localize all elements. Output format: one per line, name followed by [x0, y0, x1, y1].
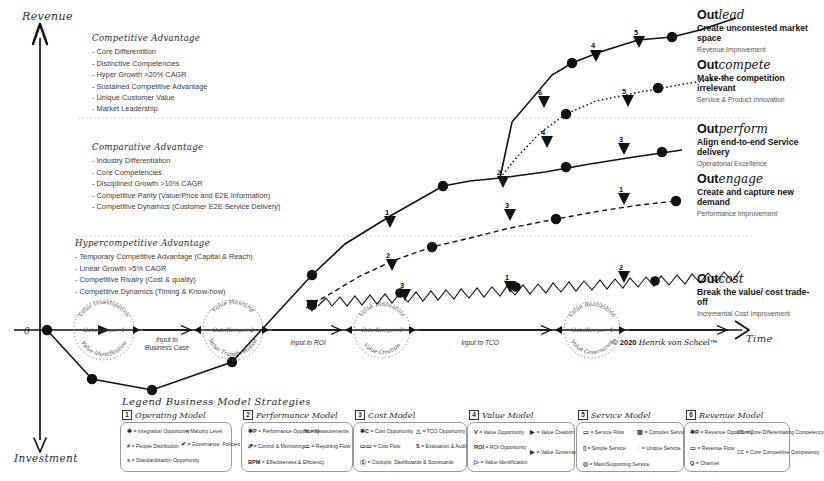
legend-item: ✱C = Cost Opportunity: [360, 428, 413, 434]
legend-box-performance-model[interactable]: ✱P = Performance Opportunity 𝒫 = Control…: [241, 422, 353, 472]
band-item: - Linear Growth >5% CAGR: [75, 263, 253, 274]
legend-box-title: Service Model: [591, 410, 651, 420]
band-item: - Market Leadership: [92, 103, 207, 114]
gatekeeper-1-name: GateKeeper 1: [74, 326, 134, 333]
legend-item: 𝒫 = Control & Monitoring: [248, 443, 304, 449]
legend-box-title: Revenue Model: [699, 410, 764, 420]
legend-box-title: Cost Model: [368, 410, 415, 420]
strategy-desc: Make the competition irrelevant: [697, 73, 815, 94]
y-axis-bottom-label: Investment: [14, 452, 78, 464]
strategy-outlead: Outlead Create uncontested market space …: [697, 8, 815, 54]
legend-item: △ = TCO Opportunity: [416, 428, 465, 434]
legend-num: 2: [243, 410, 253, 420]
step-label-outcost-1: 1: [505, 273, 509, 282]
legend-item: ▭ = Reporting Flow: [304, 443, 350, 449]
legend-item: ≡ = Standardization Opportunity: [127, 457, 199, 463]
strategy-sub: Incremental Cost Improvement: [697, 310, 815, 318]
legend-item: % = Measurements: [304, 428, 349, 434]
strategy-prefix: Out: [697, 58, 719, 72]
copyright-notice: © 2020 Henrik von Scheel™: [612, 338, 717, 347]
legend-item: ▯ = Simple Service: [583, 445, 626, 451]
step-label-outlead-4: 4: [591, 41, 595, 50]
series-outcompete: [500, 78, 726, 178]
strategy-outcost: Outcost Break the value/ cost trade-off …: [697, 272, 815, 318]
legend-item: ROI = ROI Opportunity: [474, 444, 527, 450]
step-label-outcompete-5: 5: [622, 87, 626, 96]
flow-caption-line1: Input to: [128, 336, 206, 344]
legend-item: ▷ = Value Identification: [474, 459, 527, 465]
legend-num: 6: [686, 410, 696, 420]
legend-box-operating-model[interactable]: ✱ = Integration Opportunity # = People D…: [120, 422, 232, 472]
legend-item: ◌ = Unique Service: [637, 445, 681, 451]
step-label-outlead-1: 1: [385, 208, 389, 217]
strategy-name: Outperform: [697, 122, 815, 136]
copyright-year: © 2020: [612, 338, 637, 347]
strategy-desc: Create and capture new demand: [697, 187, 815, 208]
legend-item: ▶ = Value Governance: [530, 449, 583, 455]
legend-head-4: 4Value Model: [469, 410, 533, 420]
series-outengage: [306, 196, 681, 310]
band-item: - Hyper Growth >20% CAGR: [92, 69, 207, 80]
flow-caption-roi: Input to ROI: [268, 339, 348, 347]
gatekeeper-2-name: GateKeeper 2: [203, 326, 263, 333]
legend-num: 3: [355, 410, 365, 420]
legend-item: ▨ = Complex Service: [637, 429, 687, 435]
band-competitive-advantage: Competitive Advantage - Core Differentit…: [92, 33, 207, 115]
legend-item: ◌ = Maturity Level: [181, 428, 222, 434]
legend-box-value-model[interactable]: V = Value Opportunity ROI = ROI Opportun…: [467, 422, 575, 472]
legend-head-6: 6Revenue Model: [686, 410, 764, 420]
legend-box-title: Performance Model: [256, 410, 338, 420]
legend-title: Legend Business Model Strategies: [122, 396, 311, 407]
step-label-outperform-3: 3: [619, 135, 623, 144]
legend-box-cost-model[interactable]: ✱C = Cost Opportunity ▭▭ = Cost Flow Ⓢ =…: [353, 422, 467, 472]
legend-item: ▭ = Service Flow: [583, 429, 624, 435]
strategy-sub: Performance Improvement: [697, 210, 815, 218]
band-item: - Temporary Competitive Advantage (Capit…: [75, 251, 253, 262]
legend-item: CD = Core Differentiating Competency: [737, 429, 824, 435]
legend-num: 5: [578, 410, 588, 420]
legend-item: ▭▭ = Cost Flow: [360, 443, 400, 449]
strategy-desc: Create uncontested market space: [697, 23, 815, 44]
strategy-prefix: Out: [697, 172, 719, 186]
strategy-sub: Revenue Improvement: [697, 46, 815, 54]
legend-item: # = People Distribution: [127, 443, 179, 449]
band-hypercompetitive-advantage: Hypercompetitive Advantage - Temporary C…: [75, 238, 253, 297]
strategy-outengage: Outengage Create and capture new demand …: [697, 172, 815, 218]
strategy-name: Outcost: [697, 272, 815, 286]
strategy-name: Outengage: [697, 172, 815, 186]
origin-label: 0: [24, 326, 30, 336]
legend-head-3: 3Cost Model: [355, 410, 415, 420]
band-item: - Distinctive Competencies: [92, 58, 207, 69]
strategy-suffix: engage: [719, 172, 763, 186]
strategy-prefix: Out: [697, 272, 719, 286]
strategy-sub: Service & Product Innovation: [697, 96, 815, 104]
step-label-outlead-6: 6: [538, 88, 542, 97]
strategy-outcompete: Outcompete Make the competition irreleva…: [697, 58, 815, 104]
step-label-outengage-1: 1: [619, 185, 623, 194]
copyright-name: Henrik von Scheel: [639, 338, 710, 347]
legend-item: CC = Core Competitive Competency: [737, 449, 819, 455]
step-label-outcompete-4: 4: [541, 128, 545, 137]
legend-item: Ⓢ = Cockpits, Dashboards & Scorecards: [360, 459, 454, 465]
legend-box-service-model[interactable]: ▭ = Service Flow ▯ = Simple Service ◎ = …: [576, 422, 684, 472]
strategy-desc: Align end-to-end Service delivery: [697, 137, 815, 158]
series-outperform: [500, 147, 682, 178]
band-item: - Competitive Rivalry (Cost & quality): [75, 274, 253, 285]
legend-box-title: Value Model: [482, 410, 533, 420]
step-label-outcost-3: 3: [400, 281, 404, 290]
step-label-outlead-5: 5: [634, 28, 638, 37]
strategy-desc: Break the value/ cost trade-off: [697, 287, 815, 308]
legend-item: V = Value Opportunity: [474, 429, 524, 435]
strategy-suffix: lead: [719, 8, 745, 22]
gatekeeper-4-name: GateKeeper 4: [563, 326, 621, 333]
band-title: Hypercompetitive Advantage: [75, 238, 253, 249]
band-item: - Unique Customer Value: [92, 92, 207, 103]
strategy-sub: Operational Excellence: [697, 160, 815, 168]
strategy-suffix: cost: [719, 272, 744, 286]
y-axis-arrow-down: [34, 438, 46, 452]
flow-caption-business-case: Input to Business Case: [128, 336, 206, 352]
strategy-suffix: compete: [719, 58, 771, 72]
strategy-outperform: Outperform Align end-to-end Service deli…: [697, 122, 815, 168]
legend-box-revenue-model[interactable]: ✱R = Revenue Opportunity ▭ = Revenue Flo…: [684, 422, 790, 472]
